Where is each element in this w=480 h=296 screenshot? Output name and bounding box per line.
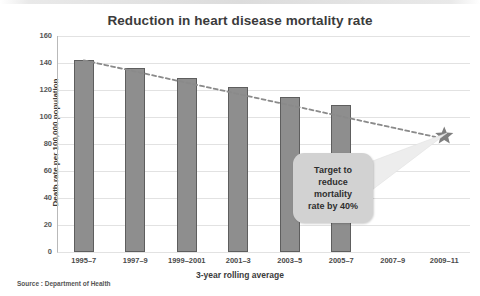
y-tick-label: 140	[4, 58, 52, 67]
y-tick-label: 100	[4, 112, 52, 121]
y-tick-label: 160	[4, 31, 52, 40]
x-tick-label: 2001–3	[213, 256, 265, 265]
y-tick-label: 40	[4, 193, 52, 202]
callout-line-1: Target to	[314, 165, 352, 175]
y-tick-label: 80	[4, 139, 52, 148]
source-note: Source : Department of Health	[17, 280, 111, 287]
callout-line-3: mortality	[314, 189, 352, 199]
x-tick-label: 2009–11	[419, 256, 471, 265]
y-tick-label: 60	[4, 166, 52, 175]
x-tick-label: 2005–7	[316, 256, 368, 265]
x-tick-label: 2007–9	[367, 256, 419, 265]
y-tick-label: 20	[4, 220, 52, 229]
callout-tail	[0, 0, 480, 296]
x-tick-label: 1997–9	[110, 256, 162, 265]
target-callout-text: Target to reduce mortality rate by 40%	[308, 164, 358, 212]
target-callout: Target to reduce mortality rate by 40%	[293, 153, 373, 223]
callout-line-2: reduce	[318, 177, 348, 187]
callout-line-4: rate by 40%	[308, 201, 358, 211]
y-tick-label: 0	[4, 247, 52, 256]
x-tick-label: 1999–2001	[161, 256, 213, 265]
x-axis-title: 3-year rolling average	[0, 270, 480, 280]
x-tick-label: 2003–5	[264, 256, 316, 265]
y-tick-label: 120	[4, 85, 52, 94]
x-tick-label: 1995–7	[58, 256, 110, 265]
